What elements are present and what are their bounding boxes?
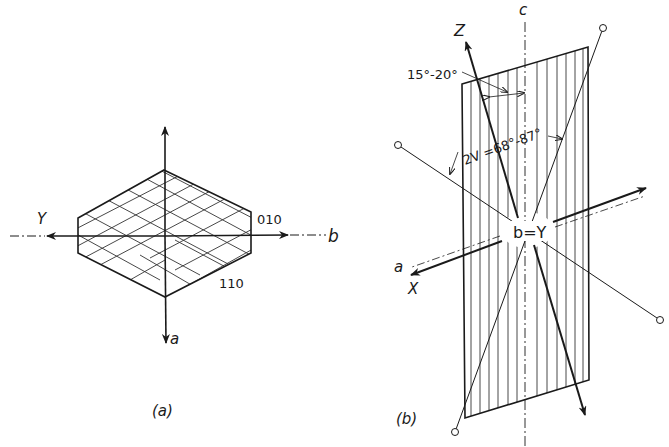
label-x-axis: X (407, 280, 419, 298)
label-extinction-angle: 15°-20° (407, 67, 458, 82)
optic-axis-end-top (600, 25, 607, 32)
x-axis-arrow (411, 241, 502, 275)
label-y: Y (37, 210, 48, 228)
caption-b: (b) (396, 410, 417, 428)
2v-leader-right (548, 136, 562, 139)
optic-axis-end-bottom (452, 429, 459, 436)
label-b: b (328, 226, 339, 246)
y-axis-arrow (553, 188, 646, 222)
label-a: a (170, 330, 179, 348)
panel-a: Y b a 010 110 (a) (10, 127, 339, 420)
label-b-equals-y: b=Y (513, 223, 547, 242)
optic-axis-end-left (395, 142, 402, 149)
caption-a: (a) (152, 402, 173, 420)
b-axis-trace-right (555, 196, 645, 227)
crystal-diagram: Y b a 010 110 (a) (0, 0, 669, 447)
label-z: Z (453, 21, 466, 40)
optic-axis-end-right (657, 317, 664, 324)
label-face-110: 110 (219, 276, 244, 291)
z-axis-arrow (466, 42, 518, 218)
2v-leader-left (450, 152, 458, 174)
label-a-axis: a (394, 258, 403, 276)
panel-b: c Z 15°-20° 2V =68°-87° b=Y a X (b) (394, 1, 664, 447)
a-axis-trace-left (412, 236, 500, 267)
label-c: c (519, 1, 528, 19)
label-2v: 2V =68°-87° (461, 125, 544, 167)
axis-a-arrow (165, 236, 166, 343)
extinction-angle-arc (489, 93, 524, 97)
label-face-010: 010 (257, 212, 282, 227)
axis-b-arrow (165, 235, 288, 236)
